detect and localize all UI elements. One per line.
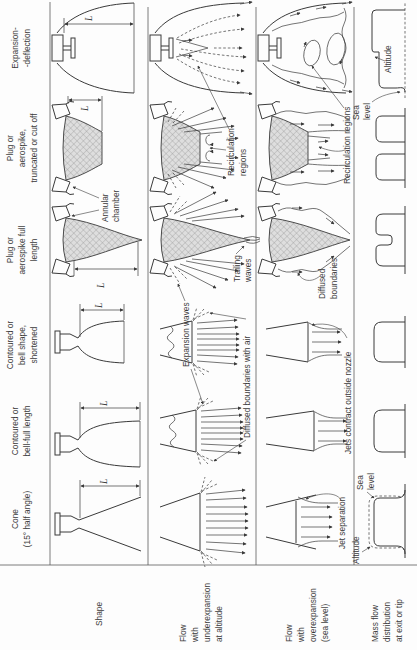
plug-trunc-underexpansion-drawing: [150, 101, 238, 194]
header-plug-full-line2: aerospike full: [17, 225, 27, 274]
diffused-boundaries-air-label: Diffused boundaries with air: [242, 336, 252, 438]
plug-full-shape-drawing: L: [52, 203, 142, 289]
plug-trunc-l-dimension-label: L: [80, 106, 90, 112]
trailing-waves-annotation: Trailing waves: [232, 246, 253, 283]
header-bell-short-line1: Contoured or: [5, 321, 15, 370]
cone-overexpansion-drawing: [266, 495, 338, 549]
row-labels: Shape Flow with underexpansion at altitu…: [94, 583, 404, 643]
plug-trunc-mass-flow-drawing: [376, 108, 405, 188]
cone-mass-flow-drawing: Altitude Sea level: [351, 473, 405, 564]
jets-contract-label: Jets contract outside nozzle: [343, 351, 353, 454]
header-plug-trunc-line3: truncated or cut off: [29, 113, 39, 183]
annular-chamber-label-line1: Annular: [100, 193, 110, 222]
exp-defl-shape-drawing: L: [52, 3, 134, 93]
exp-defl-overexpansion-drawing: [258, 2, 352, 93]
row-label-over-line4: (sea level): [320, 603, 330, 642]
row-label-under-line3: underexpansion: [202, 583, 212, 642]
plug-full-mass-flow-drawing: [376, 206, 405, 274]
recirculation-under-label-line1: Recirculation: [226, 128, 236, 176]
row-label-over-line1: Flow: [284, 623, 294, 642]
bell-short-underexpansion-drawing: [160, 307, 239, 377]
header-bell-short-line3: shortened: [29, 326, 39, 363]
header-plug-full-line3: length: [29, 238, 39, 261]
recirculation-under-annotation: Recirculation regions: [198, 66, 248, 176]
jets-contract-annotation: Jets contract outside nozzle: [312, 324, 353, 454]
screenshot-root: Cone (15° half angle) Contoured or bell-…: [0, 0, 417, 650]
bell-full-l-dimension-label: L: [99, 401, 109, 407]
trailing-waves-label-line2: waves: [243, 258, 253, 283]
bell-full-overexpansion-drawing: [266, 411, 348, 451]
header-exp-defl-line1: Expansion-: [10, 27, 20, 69]
column-headers: Cone (15° half angle) Contoured or bell-…: [5, 27, 39, 547]
diffused-boundaries-label-line1: Diffused: [317, 268, 327, 299]
bell-short-shape-drawing: L: [55, 303, 124, 363]
row-label-under-line4: at altitude: [214, 606, 224, 642]
cone-altitude-label: Altitude: [351, 536, 361, 564]
header-bell-full-line2: bell-full length: [22, 405, 32, 457]
exp-defl-sea-level-label-line1: Sea: [351, 105, 361, 120]
header-cone-line1: Cone: [10, 509, 20, 529]
annular-chamber-label-line2: chamber: [111, 189, 121, 222]
expansion-waves-label: Expansion waves: [181, 302, 191, 367]
header-plug-trunc-line1: Plug or: [5, 135, 15, 162]
cone-sea-level-label-line1: Sea: [355, 475, 365, 490]
row-label-mass-line2: distribution: [382, 601, 392, 642]
exp-defl-mass-flow-drawing: Altitude Sea level: [351, 2, 405, 120]
bell-full-mass-flow-drawing: [374, 404, 405, 458]
bell-full-underexpansion-drawing: [160, 396, 243, 466]
cone-shape-drawing: L: [55, 479, 141, 551]
bell-full-shape-drawing: L: [55, 401, 140, 467]
header-plug-trunc-line2: aerospike,: [17, 129, 27, 167]
bell-short-overexpansion-drawing: [266, 322, 342, 362]
header-bell-short-line2: bell shape,: [17, 325, 27, 365]
diffused-boundaries-label-line2: boundaries: [329, 258, 339, 299]
exp-defl-underexpansion-drawing: [150, 2, 252, 94]
header-plug-full-line1: Plug or: [5, 237, 15, 264]
row-label-over-line3: overexpansion: [308, 588, 318, 642]
rotated-figure-wrapper: Cone (15° half angle) Contoured or bell-…: [0, 0, 417, 650]
diffused-boundaries-annotation: Diffused boundaries: [298, 258, 339, 299]
cone-l-dimension-label: L: [99, 479, 109, 485]
row-label-over-line2: with: [296, 627, 306, 643]
annular-chamber-annotation: Annular chamber: [72, 187, 121, 222]
bell-short-mass-flow-drawing: [374, 316, 405, 368]
row-label-under-line2: with: [190, 627, 200, 643]
plug-trunc-overexpansion-drawing: [258, 101, 350, 194]
header-exp-defl-line2: -deflection: [22, 28, 32, 67]
row-label-shape: Shape: [94, 602, 104, 626]
cone-underexpansion-drawing: [160, 477, 248, 567]
header-bell-full-line1: Contoured or: [10, 407, 20, 456]
bell-short-l-dimension-label: L: [94, 303, 104, 309]
exp-defl-sea-level-label-line2: level: [362, 103, 372, 120]
nozzle-comparison-figure: Cone (15° half angle) Contoured or bell-…: [0, 0, 417, 650]
trailing-waves-label-line1: Trailing: [232, 255, 242, 282]
exp-defl-l-dimension-label: L: [84, 16, 94, 22]
plug-full-l-dimension-label: L: [96, 283, 106, 289]
row-label-under-line1: Flow: [178, 623, 188, 642]
expansion-waves-annotation: Expansion waves: [178, 284, 203, 404]
exp-defl-altitude-label: Altitude: [383, 45, 393, 73]
row-label-mass-line1: Mass flow: [370, 604, 380, 642]
cone-sea-level-label-line2: level: [366, 473, 376, 490]
row-label-mass-line3: at exit or tip: [394, 599, 404, 642]
plug-trunc-shape-drawing: L: [52, 96, 102, 195]
recirculation-under-label-line2: regions: [238, 149, 248, 176]
jet-separation-label: Jet separation: [337, 496, 347, 549]
header-cone-line2: (15° half angle): [22, 491, 32, 548]
